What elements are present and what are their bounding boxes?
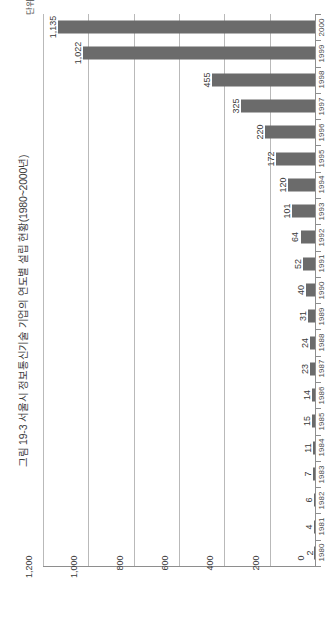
bar-value-label: 455: [200, 63, 213, 97]
bar-row: 6: [43, 487, 315, 513]
bar-row: 4: [43, 513, 315, 539]
bar-value-label: 325: [230, 89, 243, 123]
bar-row: 64: [43, 224, 315, 250]
plot-area: 1,1351,022455325220172120101645240312423…: [43, 14, 315, 566]
bar-row: 15: [43, 408, 315, 434]
value-axis-label: 200: [250, 556, 261, 596]
unit-note-label: 단위: 개: [24, 0, 36, 30]
value-axis-label: 1,000: [69, 556, 80, 596]
bar: [292, 205, 315, 218]
value-axis-label: 600: [160, 556, 171, 596]
bar: [265, 126, 315, 139]
bar-row: 40: [43, 277, 315, 303]
bar-row: 7: [43, 461, 315, 487]
bar-row: 1,022: [43, 40, 315, 66]
category-tick: [315, 566, 321, 567]
bar: [303, 257, 315, 270]
bar-row: 455: [43, 67, 315, 93]
bar: [83, 47, 315, 60]
value-axis-label: 1,200: [24, 556, 35, 596]
bar-row: 24: [43, 329, 315, 355]
bar-row: 14: [43, 382, 315, 408]
bar: [58, 21, 315, 34]
bar: [212, 73, 315, 86]
bar: [301, 231, 316, 244]
value-axis-label: 0: [296, 556, 307, 596]
value-axis-line: [43, 566, 315, 567]
value-axis-label: 800: [114, 556, 125, 596]
bar-row: 325: [43, 93, 315, 119]
figure-title: 그림 19-3 서울시 정보통신기술 기업의 연도별 설립 현황(1980~20…: [15, 146, 31, 476]
bar: [288, 178, 315, 191]
bar-row: 11: [43, 435, 315, 461]
bar-value-label: 1,135: [46, 10, 59, 44]
bar-row: 52: [43, 251, 315, 277]
bar: [276, 152, 315, 165]
figure-container: 그림 19-3 서울시 정보통신기술 기업의 연도별 설립 현황(1980~20…: [0, 0, 326, 623]
bar-row: 120: [43, 172, 315, 198]
bar-row: 23: [43, 356, 315, 382]
bar-row: 172: [43, 145, 315, 171]
bar-row: 2: [43, 540, 315, 566]
bar-row: 31: [43, 303, 315, 329]
bar-row: 101: [43, 198, 315, 224]
bar-value-label: 1,022: [72, 36, 85, 70]
value-axis-label: 400: [205, 556, 216, 596]
bar: [241, 99, 315, 112]
